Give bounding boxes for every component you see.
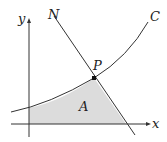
region-label: A — [78, 99, 88, 114]
normal-line-label: N — [47, 7, 60, 22]
x-axis-label: x — [152, 116, 160, 131]
curve-label: C — [150, 9, 160, 24]
diagram: y x N C P A — [0, 0, 167, 142]
point-p-marker — [92, 76, 96, 80]
y-axis-label: y — [17, 11, 26, 26]
point-label: P — [92, 58, 102, 73]
